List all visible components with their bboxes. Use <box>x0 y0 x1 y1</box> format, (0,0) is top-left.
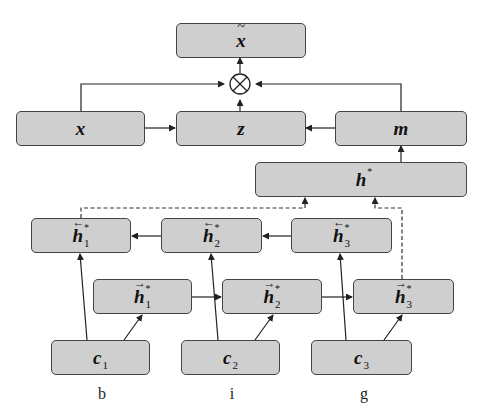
h-back-1-symbol: ← h*1 <box>72 226 89 245</box>
star-sup: * <box>84 223 89 233</box>
node-c-1: c1 <box>51 340 150 375</box>
c-letter: c <box>93 347 101 368</box>
h-fwd-2-symbol: → h*2 <box>263 287 280 306</box>
index-sub: 2 <box>232 359 238 371</box>
star-sup: * <box>407 284 412 294</box>
input-label-b: b <box>92 385 112 403</box>
h-fwd-3-symbol: → h*3 <box>395 287 412 306</box>
star-sup: * <box>146 284 151 294</box>
index-sub: 3 <box>345 237 351 249</box>
star-sup: * <box>367 167 372 177</box>
c-1-symbol: c1 <box>93 348 108 367</box>
index-sub: 1 <box>84 237 90 249</box>
left-arrow-icon: ← <box>333 216 340 228</box>
otimes-operator <box>230 74 250 94</box>
node-h-fwd-3: → h*3 <box>353 279 454 314</box>
node-h-fwd-1: → h*1 <box>93 279 192 314</box>
node-x: x <box>16 111 145 146</box>
node-c-3: c3 <box>311 340 412 375</box>
index-sub: 2 <box>215 237 221 249</box>
node-h-back-3: ← h*3 <box>291 218 392 253</box>
node-h-back-1: ← h*1 <box>31 218 131 253</box>
h-star-symbol: h* <box>356 170 367 189</box>
node-h-star: h* <box>255 162 467 197</box>
index-sub: 3 <box>407 298 413 310</box>
h-fwd-1-symbol: → h*1 <box>134 287 151 306</box>
node-c-2: c2 <box>181 340 280 375</box>
h-back-2-symbol: ← h*2 <box>203 226 220 245</box>
index-sub: 1 <box>146 298 152 310</box>
c-letter: c <box>223 347 231 368</box>
node-m: m <box>335 111 467 146</box>
input-label-i: i <box>222 385 242 403</box>
diagram-canvas: ~ x x z m h* ← h*1 ← h*2 ← h*3 <box>0 0 484 415</box>
index-sub: 3 <box>363 359 369 371</box>
node-h-fwd-2: → h*2 <box>222 279 322 314</box>
m-symbol: m <box>394 119 409 138</box>
c-3-symbol: c3 <box>354 348 369 367</box>
node-h-back-2: ← h*2 <box>161 218 262 253</box>
x-symbol: x <box>76 119 86 138</box>
c-2-symbol: c2 <box>223 348 238 367</box>
tilde-accent: ~ <box>236 20 246 34</box>
c-letter: c <box>354 347 362 368</box>
left-arrow-icon: ← <box>203 216 210 228</box>
left-arrow-icon: ← <box>72 216 79 228</box>
x-tilde-symbol: ~ x <box>236 31 246 50</box>
node-z: z <box>176 111 306 146</box>
right-arrow-icon: → <box>263 277 270 289</box>
z-symbol: z <box>237 119 244 138</box>
index-sub: 1 <box>102 359 108 371</box>
right-arrow-icon: → <box>395 277 402 289</box>
node-x-tilde: ~ x <box>176 23 306 58</box>
h-letter: h <box>356 169 367 190</box>
star-sup: * <box>275 284 280 294</box>
index-sub: 2 <box>275 298 281 310</box>
star-sup: * <box>345 223 350 233</box>
star-sup: * <box>215 223 220 233</box>
h-back-3-symbol: ← h*3 <box>333 226 350 245</box>
input-label-g: g <box>354 385 374 403</box>
right-arrow-icon: → <box>134 277 141 289</box>
